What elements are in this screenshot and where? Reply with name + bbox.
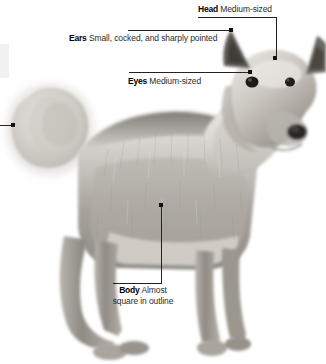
leader-dot-eyes: [248, 70, 252, 74]
callout-head-description: Medium-sized: [220, 4, 272, 14]
callout-body-description: Almost: [141, 285, 166, 295]
leader-dot-tail: [11, 123, 15, 127]
callout-ears: Ears Small, cocked, and sharply pointed: [69, 33, 217, 44]
callout-body-description-line2: square in outline: [113, 296, 174, 306]
callout-body-term: Body: [119, 285, 139, 295]
callout-ears-term: Ears: [69, 33, 87, 43]
leader-dot-head: [273, 56, 277, 60]
dog-conformation-figure: Head Medium-sized Ears Small, cocked, an…: [0, 0, 326, 364]
callout-body: Body Almost square in outline: [88, 285, 198, 307]
dog-photograph: [0, 0, 326, 364]
leader-line-ears: [128, 30, 232, 31]
callout-eyes: Eyes Medium-sized: [128, 76, 201, 87]
leader-line-eyes: [129, 72, 251, 73]
leader-dot-ears: [229, 28, 233, 32]
leader-line-body-horizontal: [113, 283, 162, 284]
callout-eyes-term: Eyes: [128, 76, 147, 86]
leader-line-head-vertical: [276, 17, 277, 59]
leader-line-head-horizontal: [198, 17, 277, 18]
callout-head-term: Head: [198, 4, 218, 14]
callout-ears-description: Small, cocked, and sharply pointed: [89, 33, 217, 43]
callout-head: Head Medium-sized: [198, 4, 272, 15]
leader-line-body-vertical: [161, 206, 162, 284]
leader-dot-body: [159, 203, 163, 207]
callout-eyes-description: Medium-sized: [149, 76, 201, 86]
